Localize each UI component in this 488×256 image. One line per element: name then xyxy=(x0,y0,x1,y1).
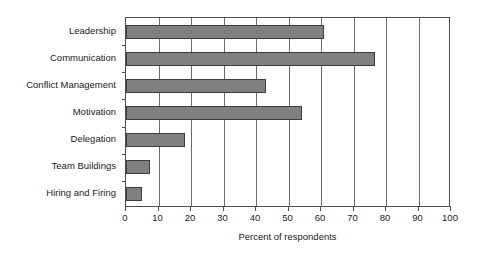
bar xyxy=(126,160,150,174)
x-tick-label: 10 xyxy=(152,212,163,223)
bar xyxy=(126,79,266,93)
x-tick-label: 50 xyxy=(282,212,293,223)
category-tick xyxy=(122,72,126,73)
bar xyxy=(126,25,324,39)
category-tick xyxy=(122,127,126,128)
x-tick xyxy=(190,206,191,211)
x-tick xyxy=(125,206,126,211)
gridline xyxy=(386,18,387,206)
x-tick xyxy=(255,206,256,211)
x-tick xyxy=(223,206,224,211)
category-axis-labels: LeadershipCommunicationConflict Manageme… xyxy=(0,17,122,207)
category-tick xyxy=(122,181,126,182)
category-tick xyxy=(122,99,126,100)
x-tick-label: 70 xyxy=(347,212,358,223)
category-label: Delegation xyxy=(71,132,116,146)
gridline xyxy=(419,18,420,206)
x-tick-label: 40 xyxy=(250,212,261,223)
x-tick xyxy=(450,206,451,211)
x-tick-label: 0 xyxy=(122,212,127,223)
x-tick-label: 30 xyxy=(217,212,228,223)
x-tick xyxy=(418,206,419,211)
plot-area xyxy=(125,17,450,207)
x-tick xyxy=(320,206,321,211)
x-tick xyxy=(158,206,159,211)
bar-chart: LeadershipCommunicationConflict Manageme… xyxy=(0,0,488,256)
category-tick xyxy=(122,154,126,155)
category-label: Team Buildings xyxy=(52,159,116,173)
category-tick xyxy=(122,45,126,46)
gridline xyxy=(321,18,322,206)
gridline xyxy=(354,18,355,206)
category-label: Communication xyxy=(50,51,116,65)
bar xyxy=(126,52,375,66)
bar xyxy=(126,133,185,147)
bar xyxy=(126,187,142,201)
x-tick xyxy=(385,206,386,211)
x-tick-label: 90 xyxy=(412,212,423,223)
x-tick-label: 20 xyxy=(185,212,196,223)
x-tick xyxy=(288,206,289,211)
x-tick xyxy=(353,206,354,211)
x-tick-label: 60 xyxy=(315,212,326,223)
category-label: Leadership xyxy=(69,24,116,38)
category-label: Conflict Management xyxy=(26,78,116,92)
x-tick-label: 80 xyxy=(380,212,391,223)
bar xyxy=(126,106,302,120)
x-axis-title: Percent of respondents xyxy=(125,231,450,242)
category-label: Hiring and Firing xyxy=(46,186,116,200)
x-tick-label: 100 xyxy=(442,212,458,223)
category-label: Motivation xyxy=(73,105,116,119)
